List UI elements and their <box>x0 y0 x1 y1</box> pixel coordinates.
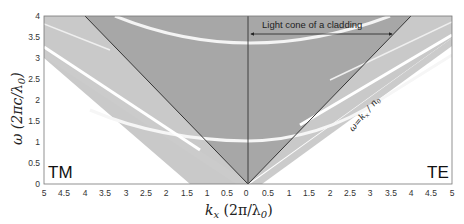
x-tick: 4 <box>83 188 88 198</box>
cone-annotation: Light cone of a cladding <box>262 19 362 30</box>
x-tick: 1.5 <box>303 188 315 198</box>
x-tick: 3.5 <box>385 188 397 198</box>
x-tick: 0.5 <box>262 188 274 198</box>
x-tick: 2 <box>164 188 169 198</box>
y-tick: 3 <box>35 53 40 63</box>
x-tick: 3 <box>124 188 129 198</box>
x-tick: 2.5 <box>344 188 356 198</box>
x-tick: 5 <box>450 188 455 198</box>
x-tick: 4.5 <box>58 188 70 198</box>
te-label: TE <box>427 163 449 182</box>
x-tick: 5 <box>42 188 47 198</box>
x-tick: 3.5 <box>99 188 111 198</box>
x-axis-label: kx (2π/λ0) <box>205 202 273 220</box>
x-tick: 1 <box>287 188 292 198</box>
x-tick: 0 <box>244 188 249 198</box>
x-tick: 0.5 <box>221 188 233 198</box>
y-axis-label: ω (2πc/λ0) <box>9 72 27 145</box>
x-tick: 2 <box>328 188 333 198</box>
tm-label: TM <box>48 163 73 182</box>
y-axis: 0 0.5 1 1.5 2 2.5 3 3.5 4 <box>28 11 40 189</box>
y-tick: 1.5 <box>28 116 40 126</box>
y-tick: 0.5 <box>28 158 40 168</box>
x-tick: 1.5 <box>181 188 193 198</box>
y-tick: 1 <box>35 137 40 147</box>
x-tick: 2.5 <box>140 188 152 198</box>
y-tick: 0 <box>35 179 40 189</box>
y-tick: 2 <box>35 95 40 105</box>
x-tick: 3 <box>368 188 373 198</box>
x-tick: 4 <box>409 188 414 198</box>
plot-area <box>44 16 452 184</box>
y-tick: 3.5 <box>28 32 40 42</box>
y-tick: 2.5 <box>28 74 40 84</box>
x-axis: 5 4.5 4 3.5 3 2.5 2 1.5 1 0.5 0 0 0.5 1 … <box>42 188 455 198</box>
x-tick: 4.5 <box>425 188 437 198</box>
x-tick: 1 <box>205 188 210 198</box>
svg-text:ω (2πc/λ0): ω (2πc/λ0) <box>9 72 27 145</box>
y-tick: 4 <box>35 11 40 21</box>
band-diagram-chart: 0 0.5 1 1.5 2 2.5 3 3.5 4 5 4.5 4 3.5 3 … <box>0 0 464 224</box>
